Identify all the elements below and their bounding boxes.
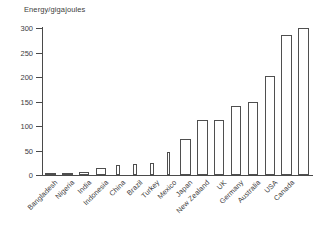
x-axis-line — [42, 175, 313, 176]
y-axis-tick-label: 50 — [0, 146, 33, 155]
bar-chart: Energy/gigajoules 050100150200250300 Ban… — [0, 0, 320, 232]
bar — [96, 168, 106, 175]
y-axis-tick-label: 200 — [0, 73, 33, 82]
y-axis-tick-label: 300 — [0, 24, 33, 33]
bar — [265, 76, 275, 175]
bar — [197, 120, 207, 175]
y-axis-tick-label: 100 — [0, 122, 33, 131]
bar — [116, 165, 120, 175]
bar — [167, 152, 171, 175]
x-axis-tick-label: China — [107, 178, 127, 198]
y-axis-title: Energy/gigajoules — [24, 5, 85, 14]
y-axis-tick-label: 150 — [0, 97, 33, 106]
bar — [180, 139, 190, 175]
y-axis-tick — [36, 175, 42, 176]
y-axis-tick-label: 0 — [0, 171, 33, 180]
bar — [281, 35, 291, 175]
bar — [150, 163, 154, 175]
bar — [231, 106, 241, 175]
bar — [62, 173, 72, 175]
bar — [45, 173, 55, 175]
bar — [133, 164, 137, 175]
plot-area — [42, 28, 312, 175]
x-axis-label-wrap: China — [107, 178, 127, 198]
bar — [214, 120, 224, 175]
bar — [298, 28, 308, 175]
bar — [248, 102, 258, 175]
bar — [79, 172, 89, 175]
y-axis-tick-label: 250 — [0, 48, 33, 57]
